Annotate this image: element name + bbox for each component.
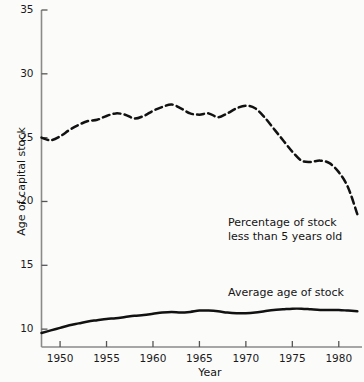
chart-plot-area <box>0 0 364 382</box>
x-axis-tick-label: 1950 <box>40 352 80 364</box>
series-line-average-age <box>42 309 358 333</box>
x-axis-tick-label: 1975 <box>272 352 312 364</box>
annotation-dashed-line-2: less than 5 years old <box>228 230 342 244</box>
series-line-percentage-under-5-years <box>42 104 358 214</box>
chart-container: 101520253035 195019551960196519701975198… <box>0 0 364 382</box>
y-axis-tick-label: 35 <box>8 3 34 15</box>
y-axis-tick-label: 10 <box>8 322 34 334</box>
annotation-dashed-line-1: Percentage of stock <box>228 216 342 230</box>
x-axis-ticks <box>60 341 339 347</box>
y-axis-tick-label: 30 <box>8 67 34 79</box>
y-axis-title: Age of capital stock <box>15 112 28 252</box>
x-axis-tick-label: 1965 <box>179 352 219 364</box>
x-axis-tick-label: 1980 <box>319 352 359 364</box>
annotation-average-age: Average age of stock <box>228 286 344 300</box>
y-axis-tick-label: 15 <box>8 258 34 270</box>
x-axis-tick-label: 1960 <box>133 352 173 364</box>
annotation-percentage-under-5-years: Percentage of stock less than 5 years ol… <box>228 216 342 243</box>
x-axis-tick-label: 1955 <box>87 352 127 364</box>
y-axis-ticks <box>42 10 48 329</box>
annotation-solid-line-1: Average age of stock <box>228 286 344 300</box>
x-axis-tick-label: 1970 <box>226 352 266 364</box>
x-axis-title: Year <box>180 366 240 379</box>
